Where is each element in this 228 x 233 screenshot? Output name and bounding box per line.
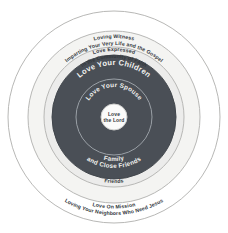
label-friends: Friends	[104, 177, 124, 184]
circles-svg: Love On Mission Loving Your Neighbors Wh…	[0, 0, 228, 233]
concentric-circles-diagram: Love On Mission Loving Your Neighbors Wh…	[0, 0, 228, 233]
label-family-line1: Family	[103, 154, 125, 162]
label-love-the-lord-line2: the Lord	[104, 117, 125, 123]
